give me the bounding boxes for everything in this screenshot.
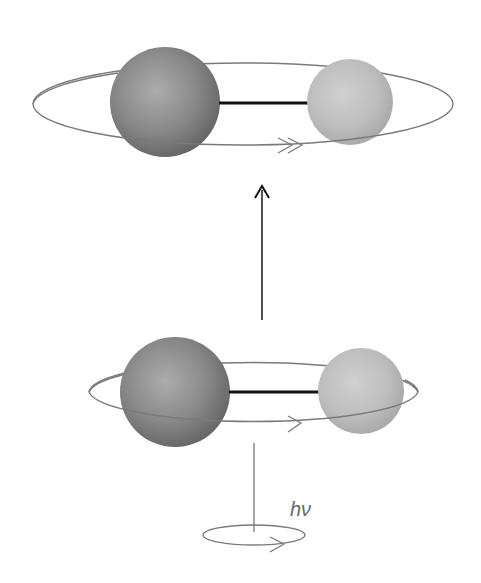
single-chevron-icon (288, 416, 301, 432)
molecule-diagram (0, 0, 481, 583)
upper-state (33, 47, 453, 157)
up-arrow-icon (255, 186, 269, 320)
lower-small-atom (318, 348, 404, 434)
double-chevron-icon (278, 138, 302, 153)
lower-state (89, 337, 418, 447)
upper-large-atom (110, 47, 220, 157)
upper-small-atom (307, 59, 393, 145)
lower-large-atom (120, 337, 230, 447)
photon-label: hν (290, 498, 311, 521)
